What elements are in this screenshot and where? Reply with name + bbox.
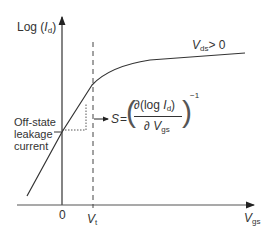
formula-lhs: S — [111, 113, 119, 125]
threshold-label: Vt — [87, 213, 97, 225]
y-axis-label: Log (Id) — [17, 21, 56, 33]
formula-exponent: −1 — [190, 92, 199, 100]
curve-label: Vds> 0 — [192, 39, 225, 51]
formula-numerator: ∂(log Id) — [134, 99, 175, 111]
x-axis-label: Vgs — [244, 212, 260, 224]
origin-label: 0 — [59, 209, 66, 221]
leakage-label: Off-state leakage current — [14, 116, 56, 152]
formula-fraction-bar — [134, 116, 182, 117]
formula-close-paren: ) — [182, 97, 192, 127]
id-vgs-curve — [27, 53, 245, 196]
formula-denominator: ∂ Vgs — [144, 120, 170, 132]
